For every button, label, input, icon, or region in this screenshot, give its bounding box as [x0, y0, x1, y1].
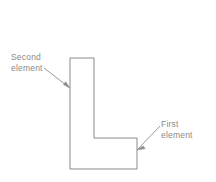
arrowhead-second-element	[63, 82, 70, 88]
leader-line-first-element	[137, 126, 160, 150]
diagram-canvas: Second element First element	[0, 0, 216, 182]
leader-segment-first-element	[137, 126, 160, 150]
callout-label-second-element: Second element	[11, 52, 43, 74]
callout-label-first-element-line2: element	[161, 130, 193, 141]
diagram-drawing	[0, 0, 216, 182]
callout-label-first-element-line1: First	[161, 119, 193, 130]
callout-label-second-element-line2: element	[11, 63, 43, 74]
leader-line-second-element	[44, 68, 70, 88]
arrowhead-first-element	[137, 146, 145, 150]
callout-label-second-element-line1: Second	[11, 52, 43, 63]
callout-label-first-element: First element	[161, 119, 193, 141]
l-shape-outline	[70, 58, 137, 169]
